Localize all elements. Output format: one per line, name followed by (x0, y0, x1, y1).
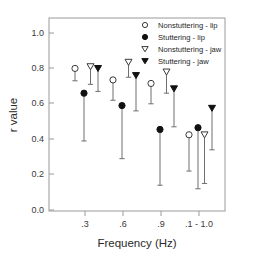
marker-filled-circle-icon (81, 90, 87, 96)
legend-label-3: Stuttering - jaw (158, 57, 209, 66)
x-tick-label-3: .1 - 1.0 (185, 219, 213, 229)
marker-filled-triangle-icon (95, 66, 102, 72)
x-axis-tick-labels: .3 .6 .9 .1 - 1.0 (81, 219, 213, 229)
scatter-plot-svg: 1.0 0.8 0.6 0.4 0.2 0.0 r value .3 .6 .9… (0, 0, 255, 256)
y-tick-label-5: 1.0 (31, 28, 44, 38)
data-point (186, 132, 192, 171)
marker-open-triangle-icon (163, 69, 170, 75)
legend-marker-open-triangle-icon (142, 47, 148, 52)
data-point (119, 102, 125, 158)
marker-filled-circle-icon (157, 126, 163, 132)
data-point (72, 65, 78, 80)
data-point (81, 90, 87, 141)
data-point (87, 64, 94, 85)
x-tick-label-0: .3 (81, 219, 89, 229)
legend-marker-open-circle-icon (142, 22, 147, 27)
marker-open-triangle-icon (125, 59, 132, 65)
data-point (95, 66, 102, 92)
chart-figure: 1.0 0.8 0.6 0.4 0.2 0.0 r value .3 .6 .9… (0, 0, 255, 256)
data-point (201, 132, 208, 184)
data-point (171, 86, 178, 127)
marker-filled-circle-icon (119, 102, 125, 108)
marker-filled-triangle-icon (171, 86, 178, 92)
data-point (110, 77, 116, 100)
data-points-layer (72, 59, 216, 188)
y-tick-label-2: 0.4 (31, 134, 44, 144)
marker-open-triangle-icon (87, 64, 94, 70)
legend-label-1: Stuttering - lip (158, 33, 205, 42)
chart-legend: Nonstuttering - lip Stuttering - lip Non… (142, 21, 222, 66)
marker-filled-circle-icon (195, 125, 201, 131)
data-point (157, 126, 163, 185)
marker-open-circle-icon (186, 132, 192, 138)
data-point (125, 59, 132, 77)
data-point (148, 80, 154, 103)
legend-label-2: Nonstuttering - jaw (158, 45, 222, 54)
y-axis-title: r value (7, 98, 19, 133)
x-tick-label-2: .9 (157, 219, 165, 229)
y-tick-label-4: 0.8 (31, 63, 44, 73)
x-axis-title: Frequency (Hz) (97, 237, 176, 249)
y-axis-tick-labels: 1.0 0.8 0.6 0.4 0.2 0.0 (31, 28, 44, 215)
marker-open-circle-icon (72, 65, 78, 71)
legend-marker-filled-triangle-icon (142, 59, 148, 64)
marker-open-triangle-icon (201, 132, 208, 138)
data-point (163, 69, 170, 93)
y-tick-label-0: 0.0 (31, 205, 44, 215)
data-point (195, 125, 201, 189)
data-point (209, 105, 216, 149)
legend-marker-filled-circle-icon (142, 34, 147, 39)
data-point (133, 73, 140, 111)
marker-open-circle-icon (110, 77, 116, 83)
series-2 (87, 59, 208, 183)
series-1 (81, 90, 201, 189)
marker-filled-triangle-icon (133, 73, 140, 79)
x-tick-label-1: .6 (119, 219, 127, 229)
x-axis-ticks (85, 211, 199, 216)
y-axis-ticks (49, 33, 54, 210)
y-tick-label-3: 0.6 (31, 98, 44, 108)
y-tick-label-1: 0.2 (31, 169, 44, 179)
marker-open-circle-icon (148, 80, 154, 86)
marker-filled-triangle-icon (209, 105, 216, 111)
legend-label-0: Nonstuttering - lip (158, 21, 218, 30)
